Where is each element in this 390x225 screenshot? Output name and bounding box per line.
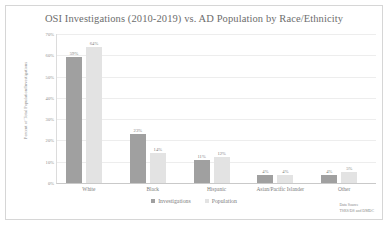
bar-group: 11%12%Hispanic xyxy=(185,34,249,183)
x-axis-category-label: White xyxy=(57,186,121,192)
bar-group: 4%4%Asian/Pacific Islander xyxy=(248,34,312,183)
source-note: Data Source TSRS/DS and DMDC xyxy=(339,203,374,214)
y-axis-tick-label: 50% xyxy=(46,74,54,79)
bar-population[interactable]: 64% xyxy=(86,47,102,183)
bar-value-label: 5% xyxy=(346,166,352,171)
bar-value-label: 4% xyxy=(262,169,268,174)
bar-value-label: 23% xyxy=(134,128,142,133)
chart-title: OSI Investigations (2010-2019) vs. AD Po… xyxy=(6,13,382,24)
bar-group: 23%14%Black xyxy=(121,34,185,183)
y-axis-tick-label: 20% xyxy=(46,138,54,143)
x-axis-category-label: Hispanic xyxy=(185,186,249,192)
bar-investigations[interactable]: 4% xyxy=(257,175,273,184)
bar-investigations[interactable]: 11% xyxy=(194,160,210,183)
bar-population[interactable]: 5% xyxy=(341,172,357,183)
bar-value-label: 4% xyxy=(326,169,332,174)
legend-swatch-population xyxy=(205,199,209,203)
x-axis-category-label: Asian/Pacific Islander xyxy=(248,186,312,192)
x-axis-category-label: Other xyxy=(312,186,376,192)
y-axis-tick-label: 60% xyxy=(46,53,54,58)
bar-investigations[interactable]: 23% xyxy=(130,134,146,183)
legend-swatch-investigations xyxy=(151,199,155,203)
bar-value-label: 11% xyxy=(197,154,205,159)
legend-item-population[interactable]: Population xyxy=(205,198,237,204)
y-axis-tick-label: 30% xyxy=(46,117,54,122)
bar-population[interactable]: 14% xyxy=(150,153,166,183)
x-axis-category-label: Black xyxy=(121,186,185,192)
legend-label-population: Population xyxy=(212,198,237,204)
y-axis-tick-label: 10% xyxy=(46,159,54,164)
y-axis-title: Percent of Total Population/Investigatio… xyxy=(23,41,28,161)
plot-area: 0%10%20%30%40%50%60%70%59%64%White23%14%… xyxy=(56,34,376,184)
bar-population[interactable]: 4% xyxy=(277,175,293,184)
bar-group: 59%64%White xyxy=(57,34,121,183)
bar-investigations[interactable]: 4% xyxy=(321,175,337,184)
bar-value-label: 59% xyxy=(70,51,78,56)
bar-value-label: 12% xyxy=(217,151,225,156)
legend-label-investigations: Investigations xyxy=(158,198,191,204)
y-axis-tick-label: 70% xyxy=(46,32,54,37)
chart-container: OSI Investigations (2010-2019) vs. AD Po… xyxy=(5,5,383,220)
legend-item-investigations[interactable]: Investigations xyxy=(151,198,191,204)
bar-value-label: 64% xyxy=(90,41,98,46)
bar-investigations[interactable]: 59% xyxy=(66,57,82,183)
y-axis-tick-label: 40% xyxy=(46,95,54,100)
chart-legend: Investigations Population xyxy=(6,198,382,204)
source-note-line-2: TSRS/DS and DMDC xyxy=(339,209,374,214)
bar-group: 4%5%Other xyxy=(312,34,376,183)
bar-value-label: 4% xyxy=(282,169,288,174)
y-axis-tick-label: 0% xyxy=(48,181,54,186)
bar-value-label: 14% xyxy=(154,147,162,152)
bar-population[interactable]: 12% xyxy=(214,157,230,183)
